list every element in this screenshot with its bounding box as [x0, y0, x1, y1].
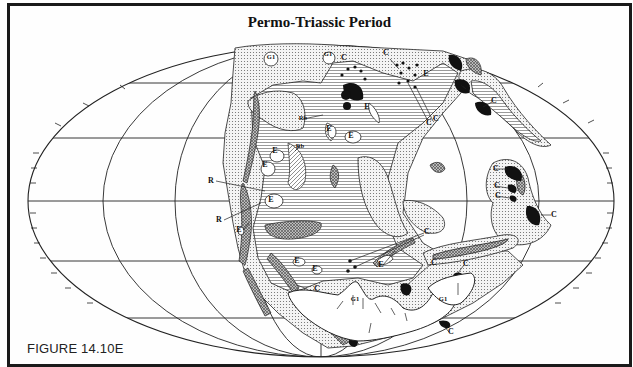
map-label-e: E [294, 256, 299, 265]
map-label-g1: G1 [324, 50, 332, 57]
map-label-c: C [491, 96, 497, 105]
map-label-c: C [493, 164, 499, 173]
map-label-e: E [326, 124, 331, 133]
map-label-c: C [463, 259, 469, 268]
map-label-rb: Rb [299, 114, 308, 121]
map-label-g1: G1 [351, 295, 359, 302]
map-label-c: C [448, 327, 454, 336]
map-label-c: C [383, 48, 389, 57]
map-label-g1: G1 [267, 53, 275, 60]
map-label-e: E [236, 225, 241, 234]
map-label-e: E [268, 195, 273, 204]
map-label-r: R [216, 215, 222, 224]
paleogeographic-world-map: G1G1CCECCCCRbERbEEEERERECCCCCECCEECG1G1C [3, 3, 633, 367]
map-label-e: E [312, 264, 317, 273]
map-label-c: C [551, 210, 557, 219]
map-label-e: E [378, 260, 383, 269]
map-label-c: C [426, 118, 432, 127]
map-label-rb: Rb [296, 142, 305, 149]
map-label-c: C [341, 53, 347, 62]
map-label-e: E [262, 160, 267, 169]
map-label-c: C [495, 191, 501, 200]
map-label-e: E [272, 146, 277, 155]
figure-title: Permo-Triassic Period [10, 14, 629, 31]
map-label-c: C [314, 284, 320, 293]
map-label-c: C [460, 84, 466, 93]
figure-number-label: FIGURE 14.10E [27, 341, 124, 356]
map-label-c: C [424, 227, 430, 236]
map-label-e: E [348, 131, 353, 140]
map-label-g1: G1 [439, 295, 447, 302]
map-label-c: C [431, 258, 437, 267]
map-label-r: R [208, 176, 214, 185]
map-label-e: E [364, 102, 369, 111]
map-label-c: C [433, 114, 439, 123]
figure-frame: G1G1CCECCCCRbERbEEEERERECCCCCECCEECG1G1C… [7, 3, 632, 367]
map-label-e: E [423, 69, 428, 78]
map-label-c: C [494, 181, 500, 190]
